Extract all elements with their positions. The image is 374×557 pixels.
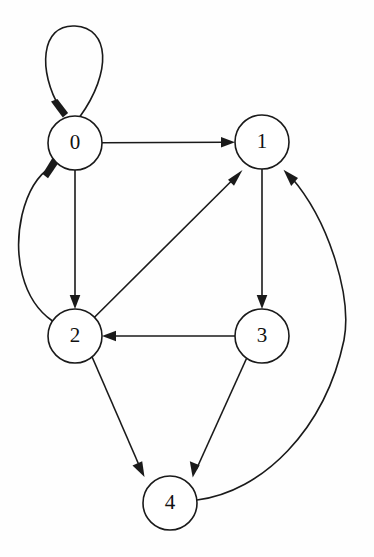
graph-node-1-circle <box>235 115 289 169</box>
edge-0-to-2-arrowhead <box>70 295 81 309</box>
graph-node-1[interactable]: 1 <box>235 115 289 169</box>
graph-node-3[interactable]: 3 <box>235 309 289 363</box>
edge-1-to-3-arrowhead <box>257 295 268 309</box>
edge-1-to-3[interactable] <box>257 169 268 309</box>
graph-node-2[interactable]: 2 <box>48 309 102 363</box>
edge-2-to-0-path <box>19 167 53 322</box>
graph-node-4-circle <box>143 476 197 530</box>
edge-layer <box>19 26 346 500</box>
edge-2-to-1-path <box>95 177 236 317</box>
edge-2-to-1[interactable] <box>95 170 243 317</box>
edge-3-to-2[interactable] <box>102 331 235 342</box>
graph-node-2-circle <box>48 309 102 363</box>
edge-2-to-4-path <box>92 357 141 469</box>
edge-2-to-1-arrowhead <box>228 170 243 186</box>
edge-0-to-2[interactable] <box>70 170 81 309</box>
graph-node-4[interactable]: 4 <box>143 476 197 530</box>
graph-canvas: 0 1 2 3 4 <box>0 0 374 557</box>
edge-0-to-0-arrowhead <box>51 99 68 118</box>
edge-2-to-0[interactable] <box>19 157 60 321</box>
edge-3-to-4-path <box>197 359 247 470</box>
edge-0-to-1-path <box>102 142 226 143</box>
directed-graph-svg: 0 1 2 3 4 <box>0 0 374 557</box>
graph-node-0[interactable]: 0 <box>48 116 102 170</box>
graph-node-0-circle <box>48 116 102 170</box>
edge-3-to-2-arrowhead <box>102 331 116 342</box>
edge-3-to-4[interactable] <box>190 359 247 478</box>
edge-2-to-4-arrowhead <box>133 461 145 477</box>
graph-node-3-circle <box>235 309 289 363</box>
node-layer: 0 1 2 3 4 <box>48 115 289 530</box>
edge-0-to-0[interactable] <box>46 26 103 118</box>
edge-0-to-1-arrowhead <box>221 137 235 148</box>
edge-0-to-1[interactable] <box>102 137 235 148</box>
edge-2-to-4[interactable] <box>92 357 145 477</box>
